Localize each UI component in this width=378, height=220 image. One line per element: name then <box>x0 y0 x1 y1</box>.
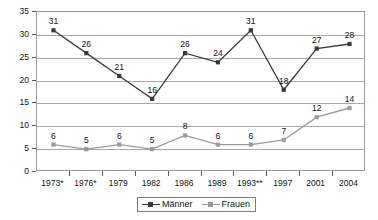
data-point-marker <box>51 28 55 32</box>
x-tick-mark <box>299 171 300 176</box>
data-point-label: 24 <box>213 49 222 58</box>
y-tick-label: 15 <box>20 98 29 107</box>
data-point-label: 6 <box>216 132 221 141</box>
y-tick-label: 20 <box>20 76 29 85</box>
x-tick-mark <box>266 171 267 176</box>
data-point-marker <box>249 142 253 146</box>
y-axis: 05101520253035 <box>0 0 36 220</box>
data-point-marker <box>315 46 319 50</box>
data-point-label: 31 <box>49 17 58 26</box>
y-tick-label: 10 <box>20 121 29 130</box>
y-tick-label: 35 <box>20 7 29 16</box>
x-tick-label: 1976* <box>74 178 96 188</box>
series-1 <box>51 28 351 101</box>
data-point-label: 5 <box>150 136 155 145</box>
legend-marker-icon <box>142 200 160 209</box>
data-point-label: 31 <box>246 17 255 26</box>
data-point-label: 27 <box>312 36 321 45</box>
x-tick-mark <box>69 171 70 176</box>
data-point-marker <box>51 142 55 146</box>
x-tick-label: 1986 <box>175 178 194 188</box>
data-point-marker <box>216 60 220 64</box>
x-tick-label: 1993** <box>237 178 263 188</box>
x-axis-ticks <box>36 171 365 177</box>
data-point-label: 18 <box>279 77 288 86</box>
x-tick-mark <box>135 171 136 176</box>
data-point-marker <box>117 74 121 78</box>
data-point-label: 14 <box>345 95 354 104</box>
x-tick-label: 2001 <box>306 178 325 188</box>
y-tick-label: 30 <box>20 30 29 39</box>
legend-marker-icon <box>202 200 220 209</box>
x-tick-label: 1982 <box>142 178 161 188</box>
x-tick-mark <box>102 171 103 176</box>
data-point-label: 21 <box>115 63 124 72</box>
data-point-marker <box>282 138 286 142</box>
data-point-label: 6 <box>51 132 56 141</box>
x-tick-label: 1979 <box>109 178 128 188</box>
x-tick-label: 1973* <box>41 178 63 188</box>
data-point-marker <box>117 142 121 146</box>
x-tick-label: 1997 <box>273 178 292 188</box>
data-point-marker <box>315 115 319 119</box>
data-point-marker <box>84 51 88 55</box>
series-line <box>53 108 349 149</box>
data-point-label: 5 <box>84 136 89 145</box>
plot-area: 31262116262431182728656586671214 <box>36 11 365 171</box>
legend-label: Frauen <box>222 200 251 209</box>
data-point-label: 12 <box>312 104 321 113</box>
y-tick-label: 5 <box>24 144 29 153</box>
legend-item-1[interactable]: Männer <box>142 200 193 209</box>
legend-label: Männer <box>162 200 193 209</box>
data-point-marker <box>150 97 154 101</box>
data-point-marker <box>84 147 88 151</box>
data-point-marker <box>249 28 253 32</box>
line-chart: 05101520253035 3126211626243118272865658… <box>0 0 378 220</box>
series-line <box>53 30 349 99</box>
x-tick-mark <box>332 171 333 176</box>
data-point-marker <box>216 142 220 146</box>
data-point-label: 26 <box>82 40 91 49</box>
data-point-marker <box>183 133 187 137</box>
data-point-label: 6 <box>117 132 122 141</box>
data-point-label: 7 <box>281 127 286 136</box>
series-2 <box>51 106 351 151</box>
x-tick-label: 2004 <box>339 178 358 188</box>
x-tick-label: 1989 <box>207 178 226 188</box>
x-tick-mark <box>233 171 234 176</box>
x-tick-mark <box>168 171 169 176</box>
data-point-label: 28 <box>345 31 354 40</box>
data-point-marker <box>347 106 351 110</box>
data-point-marker <box>347 42 351 46</box>
data-point-marker <box>282 88 286 92</box>
data-point-label: 26 <box>180 40 189 49</box>
data-point-label: 16 <box>147 86 156 95</box>
y-tick-label: 25 <box>20 53 29 62</box>
y-tick-label: 0 <box>24 167 29 176</box>
x-axis: 1973*1976*19791982198619891993**19972001… <box>36 178 365 192</box>
data-point-marker <box>183 51 187 55</box>
data-point-marker <box>150 147 154 151</box>
x-tick-mark <box>201 171 202 176</box>
chart-legend: MännerFrauen <box>137 197 256 212</box>
data-point-label: 8 <box>183 122 188 131</box>
legend-item-2[interactable]: Frauen <box>202 200 251 209</box>
data-point-label: 6 <box>248 132 253 141</box>
